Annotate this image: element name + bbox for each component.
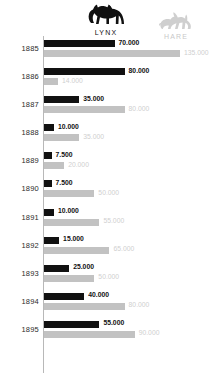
chart-row: 189110.00055.000 [0, 205, 210, 233]
bar-hare [44, 50, 180, 57]
chart-row: 18907.50050.000 [0, 176, 210, 204]
bar-hare-value: 135.000 [184, 49, 209, 56]
bar-hare-value: 14.000 [62, 77, 83, 84]
bar-hare [44, 275, 94, 282]
chart-row: 188680.00014.000 [0, 64, 210, 92]
year-label: 1887 [0, 100, 39, 109]
year-label: 1895 [0, 325, 39, 334]
bar-hare-value: 20.000 [68, 161, 89, 168]
bar-group: 70.000135.000 [44, 36, 210, 64]
bar-group: 10.00055.000 [44, 205, 210, 233]
bar-lynx [44, 265, 69, 272]
bar-group: 80.00014.000 [44, 64, 210, 92]
year-label: 1885 [0, 44, 39, 53]
chart-row: 189325.00050.000 [0, 261, 210, 289]
bar-lynx-value: 10.000 [58, 207, 79, 214]
bar-lynx [44, 293, 84, 300]
year-label: 1886 [0, 72, 39, 81]
lynx-hare-bar-chart: LYNX HARE 188570.000135.000188680.00014.… [0, 0, 210, 384]
year-label: 1893 [0, 269, 39, 278]
bar-hare-value: 50.000 [98, 273, 119, 280]
bar-lynx [44, 237, 59, 244]
bar-hare [44, 247, 109, 254]
year-label: 1890 [0, 184, 39, 193]
chart-row: 189215.00065.000 [0, 233, 210, 261]
chart-row: 18897.50020.000 [0, 148, 210, 176]
bar-group: 15.00065.000 [44, 233, 210, 261]
bar-group: 7.50050.000 [44, 176, 210, 204]
bar-lynx-value: 25.000 [73, 263, 94, 270]
bar-hare [44, 78, 58, 85]
bar-hare [44, 190, 94, 197]
legend-lynx: LYNX [76, 2, 136, 36]
bar-hare-value: 35.000 [83, 133, 104, 140]
bar-hare [44, 219, 99, 226]
bar-lynx [44, 180, 52, 187]
chart-rows: 188570.000135.000188680.00014.000188735.… [0, 36, 210, 345]
bar-hare [44, 303, 125, 310]
bar-lynx-value: 40.000 [88, 291, 109, 298]
year-label: 1892 [0, 241, 39, 250]
bar-hare-value: 55.000 [103, 217, 124, 224]
year-label: 1894 [0, 297, 39, 306]
year-label: 1891 [0, 213, 39, 222]
bar-group: 10.00035.000 [44, 120, 210, 148]
bar-lynx-value: 7.500 [56, 179, 73, 186]
legend-lynx-label: LYNX [76, 29, 136, 36]
year-label: 1889 [0, 156, 39, 165]
bar-lynx [44, 321, 99, 328]
bar-group: 7.50020.000 [44, 148, 210, 176]
bar-lynx-value: 55.000 [103, 319, 124, 326]
bar-lynx-value: 80.000 [129, 67, 150, 74]
chart-row: 188735.00080.000 [0, 92, 210, 120]
bar-lynx-value: 10.000 [58, 123, 79, 130]
bar-lynx-value: 35.000 [83, 95, 104, 102]
bar-lynx [44, 96, 79, 103]
bar-hare-value: 65.000 [113, 245, 134, 252]
bar-hare-value: 50.000 [98, 189, 119, 196]
bar-group: 40.00080.000 [44, 289, 210, 317]
bar-lynx [44, 209, 54, 216]
bar-lynx-value: 70.000 [119, 39, 140, 46]
bar-group: 35.00080.000 [44, 92, 210, 120]
bar-hare-value: 80.000 [129, 301, 150, 308]
bar-lynx [44, 68, 125, 75]
bar-hare [44, 134, 79, 141]
hare-icon [150, 12, 202, 32]
chart-row: 188810.00035.000 [0, 120, 210, 148]
bar-hare-value: 80.000 [129, 105, 150, 112]
chart-row: 188570.000135.000 [0, 36, 210, 64]
bar-hare [44, 331, 135, 338]
bar-hare-value: 90.000 [139, 329, 160, 336]
bar-lynx-value: 15.000 [63, 235, 84, 242]
chart-row: 189555.00090.000 [0, 317, 210, 345]
bar-hare [44, 106, 125, 113]
bar-group: 55.00090.000 [44, 317, 210, 345]
bar-lynx [44, 124, 54, 131]
bar-lynx [44, 40, 115, 47]
bar-lynx [44, 152, 52, 159]
bar-lynx-value: 7.500 [56, 151, 73, 158]
year-label: 1888 [0, 128, 39, 137]
bar-hare [44, 162, 64, 169]
chart-row: 189440.00080.000 [0, 289, 210, 317]
lynx-icon [76, 2, 136, 28]
bar-group: 25.00050.000 [44, 261, 210, 289]
